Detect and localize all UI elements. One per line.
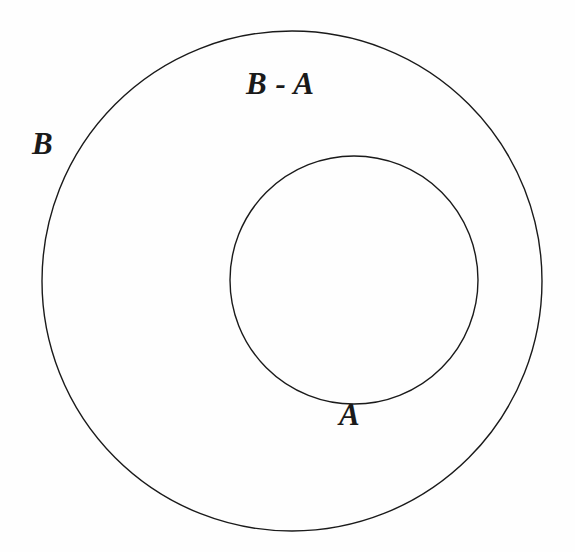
- label-b-minus-a: B - A: [246, 68, 315, 99]
- label-inner-set-a: A: [339, 399, 360, 430]
- label-outer-set-b: B: [32, 128, 53, 159]
- venn-diagram-canvas: B - A B A: [0, 0, 575, 552]
- outer-circle-b: [42, 31, 542, 531]
- inner-circle-a: [230, 156, 478, 404]
